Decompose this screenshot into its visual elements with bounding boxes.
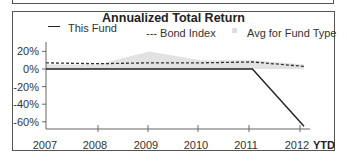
plot-area: 20%0%-20%-40%-60%20072008200920102011201… <box>0 0 347 162</box>
x-tick-label: 2011 <box>234 139 258 151</box>
x-tick-label: 2012 <box>285 139 309 151</box>
y-tick-label: -60% <box>13 116 39 128</box>
y-tick-label: 0% <box>23 63 39 75</box>
x-tick-label: 2009 <box>134 139 158 151</box>
y-tick-label: 20% <box>17 45 39 57</box>
ytd-label: YTD <box>313 139 335 151</box>
x-tick-label: 2008 <box>83 139 107 151</box>
y-tick-label: -40% <box>13 98 39 110</box>
this-fund-line <box>46 69 304 126</box>
x-tick-label: 2010 <box>184 139 208 151</box>
y-tick-label: -20% <box>13 81 39 93</box>
avg-fund-type-area <box>46 51 304 69</box>
x-tick-label: 2007 <box>33 139 57 151</box>
